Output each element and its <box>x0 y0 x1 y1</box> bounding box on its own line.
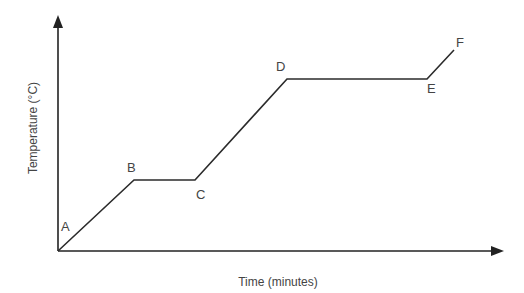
heating-curve-chart: A B C D E F Time (minutes) Temperature (… <box>0 0 524 293</box>
point-label-c: C <box>196 187 205 202</box>
chart-canvas: A B C D E F Time (minutes) Temperature (… <box>0 0 524 293</box>
point-label-e: E <box>427 81 436 96</box>
point-label-b: B <box>127 160 136 175</box>
point-label-f: F <box>456 35 464 50</box>
y-axis-arrow-icon <box>53 15 63 28</box>
x-axis-arrow-icon <box>491 246 504 256</box>
point-label-d: D <box>276 59 285 74</box>
point-label-a: A <box>61 219 70 234</box>
x-axis-title: Time (minutes) <box>238 275 318 289</box>
y-axis-title: Temperature (°C) <box>26 82 40 174</box>
temperature-line <box>58 50 454 251</box>
